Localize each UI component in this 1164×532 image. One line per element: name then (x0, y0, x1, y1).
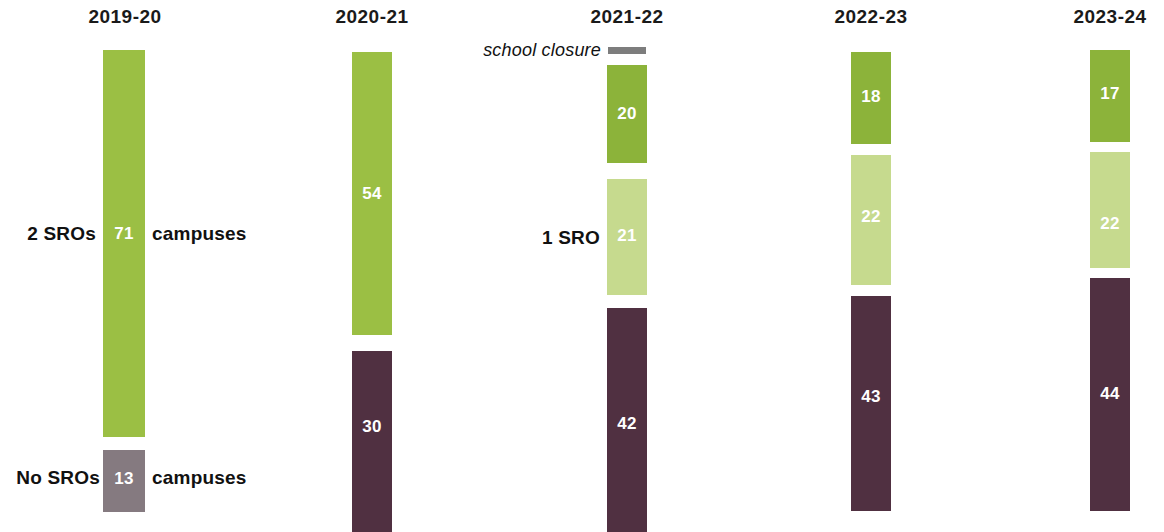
bar-segment-b-2020-nosro (352, 351, 392, 532)
bar-value-b-2021-nosro: 42 (607, 415, 647, 432)
year-label-2019-20: 2019-20 (88, 6, 161, 28)
year-label-2020-21: 2020-21 (335, 6, 408, 28)
annotation-two-sros: 2 SROs (27, 224, 96, 243)
sro-campus-bar-chart: 2019-2071132020-2154302021-222021422022-… (0, 0, 1164, 532)
annotation-no-sros: No SROs (16, 468, 100, 487)
school-closure-marker-icon (608, 47, 646, 54)
bar-value-b-2022-2sro: 18 (851, 88, 891, 105)
bar-value-b-2021-2sro: 20 (607, 105, 647, 122)
annotation-campuses-top: campuses (152, 224, 247, 243)
year-label-2022-23: 2022-23 (834, 6, 907, 28)
bar-value-b-2020-2sro: 54 (352, 185, 392, 202)
bar-value-b-2021-1sro: 21 (607, 227, 647, 244)
bar-value-b-2022-1sro: 22 (851, 208, 891, 225)
bar-segment-b-2023-1sro (1090, 152, 1130, 268)
bar-value-b-2019-nosro: 13 (103, 470, 145, 487)
annotation-campuses-bottom: campuses (152, 468, 247, 487)
bar-value-b-2023-1sro: 22 (1090, 215, 1130, 232)
bar-value-b-2019-2sro: 71 (103, 225, 145, 242)
year-label-2023-24: 2023-24 (1073, 6, 1146, 28)
bar-value-b-2020-nosro: 30 (352, 418, 392, 435)
year-label-2021-22: 2021-22 (590, 6, 663, 28)
bar-segment-b-2019-2sro (103, 50, 145, 437)
annotation-school-closure: school closure (483, 41, 601, 59)
annotation-one-sro: 1 SRO (542, 228, 600, 247)
bar-value-b-2023-nosro: 44 (1090, 385, 1130, 402)
bar-value-b-2023-2sro: 17 (1090, 85, 1130, 102)
bar-value-b-2022-nosro: 43 (851, 388, 891, 405)
